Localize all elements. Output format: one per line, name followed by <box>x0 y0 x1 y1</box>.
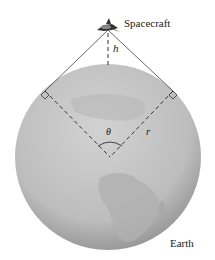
spacecraft-earth-diagram: Spacecraft h r θ Earth <box>0 0 215 260</box>
earth-label: Earth <box>170 238 194 249</box>
radius-label: r <box>146 126 150 137</box>
height-label: h <box>113 43 119 54</box>
angle-label: θ <box>106 127 111 137</box>
spacecraft-label: Spacecraft <box>124 18 170 29</box>
spacecraft-icon <box>97 18 120 32</box>
earth-globe <box>15 64 201 250</box>
